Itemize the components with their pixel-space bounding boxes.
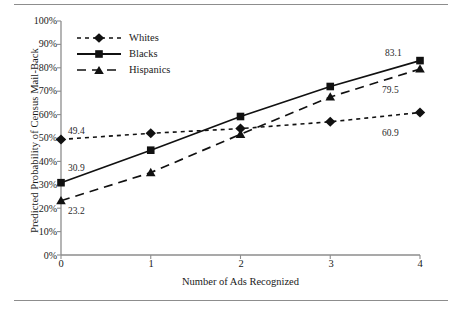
legend-label-hispanics: Hispanics bbox=[122, 63, 170, 77]
data-label-blacks-4: 83.1 bbox=[385, 48, 402, 58]
figure-container: Predicted Probability of Census Mail-Bac… bbox=[0, 0, 461, 311]
legend-key-hispanics-icon bbox=[76, 63, 122, 77]
series-line-blacks bbox=[61, 61, 420, 183]
legend-label-blacks: Blacks bbox=[122, 47, 158, 61]
data-label-hispanics-0: 23.2 bbox=[68, 206, 85, 216]
legend-item-hispanics: Hispanics bbox=[76, 62, 170, 78]
chart-legend: Whites Blacks Hispanics bbox=[76, 30, 170, 78]
legend-key-whites-icon bbox=[76, 31, 122, 45]
data-label-whites-4: 60.9 bbox=[382, 128, 399, 138]
data-label-hispanics-4: 79.5 bbox=[382, 85, 399, 95]
data-label-blacks-0: 30.9 bbox=[68, 163, 85, 173]
legend-key-blacks-icon bbox=[76, 47, 122, 61]
series-markers-hispanics bbox=[56, 64, 425, 204]
plot-area bbox=[0, 0, 461, 311]
legend-item-whites: Whites bbox=[76, 30, 170, 46]
data-label-whites-0: 49.4 bbox=[68, 126, 85, 136]
legend-item-blacks: Blacks bbox=[76, 46, 170, 62]
legend-label-whites: Whites bbox=[122, 31, 159, 45]
